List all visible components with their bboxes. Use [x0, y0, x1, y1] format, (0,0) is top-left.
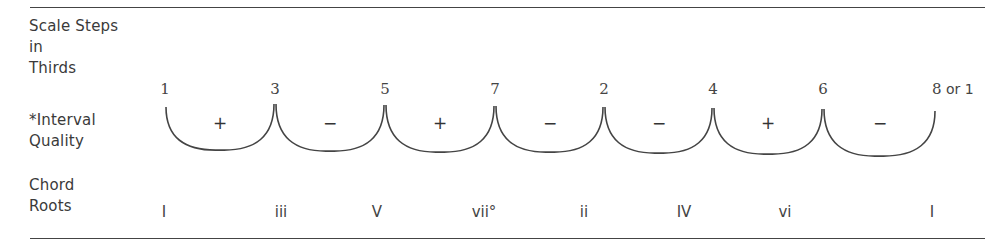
chord-root: vi [778, 203, 791, 221]
interval-quality: − [543, 113, 557, 133]
chord-root: I [930, 203, 934, 221]
chord-root: vii° [472, 203, 497, 221]
chord-root: iii [275, 203, 288, 221]
chord-root: V [372, 203, 382, 221]
chord-root: IV [677, 203, 692, 221]
interval-quality: − [873, 113, 887, 133]
interval-arcs [0, 0, 1004, 252]
interval-quality: + [213, 113, 227, 133]
interval-quality: + [433, 113, 447, 133]
interval-quality: − [652, 113, 666, 133]
chord-root: ii [580, 203, 588, 221]
chord-root: I [162, 203, 166, 221]
interval-quality: + [761, 113, 775, 133]
interval-quality: − [323, 113, 337, 133]
